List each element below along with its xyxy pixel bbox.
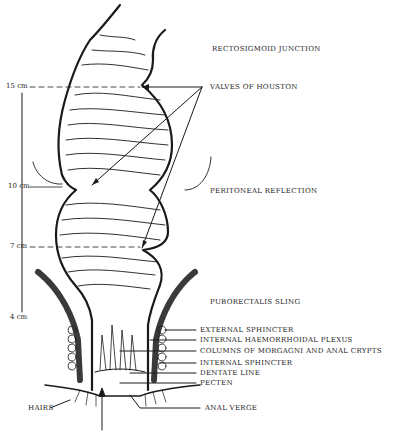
scale-4cm: 4 cm bbox=[10, 313, 27, 321]
rectum-anatomy-drawing bbox=[0, 0, 393, 441]
peritoneal-fold-left bbox=[33, 162, 62, 184]
label-external-sphincter: EXTERNAL SPHINCTER bbox=[200, 326, 294, 334]
label-columns-of-morgagni: COLUMNS OF MORGAGNI AND ANAL CRYPTS bbox=[200, 347, 382, 355]
levator-right bbox=[154, 272, 195, 380]
scale-10cm: 10 cm bbox=[8, 182, 30, 190]
label-anal-verge: ANAL VERGE bbox=[205, 404, 257, 412]
scale-15cm: 15 cm bbox=[6, 82, 28, 90]
rectum-left-wall bbox=[56, 5, 120, 390]
peritoneal-fold-right bbox=[185, 157, 211, 190]
label-internal-sphincter: INTERNAL SPHINCTER bbox=[200, 359, 292, 367]
label-pecten: PECTEN bbox=[200, 379, 233, 387]
label-internal-haemorrhoidal-plexus: INTERNAL HAEMORRHOIDAL PLEXUS bbox=[200, 336, 353, 344]
label-dentate-line: DENTATE LINE bbox=[200, 369, 260, 377]
label-peritoneal-reflection: PERITONEAL REFLECTION bbox=[210, 187, 317, 195]
anal-skin bbox=[45, 385, 200, 396]
label-valves-of-houston: VALVES OF HOUSTON bbox=[210, 83, 298, 91]
label-puborectalis-sling: PUBORECTALIS SLING bbox=[210, 298, 300, 306]
label-hairs: HAIRS bbox=[28, 404, 54, 412]
label-rectosigmoid-junction: RECTOSIGMOID JUNCTION bbox=[212, 45, 321, 53]
scale-7cm: 7 cm bbox=[10, 242, 27, 250]
